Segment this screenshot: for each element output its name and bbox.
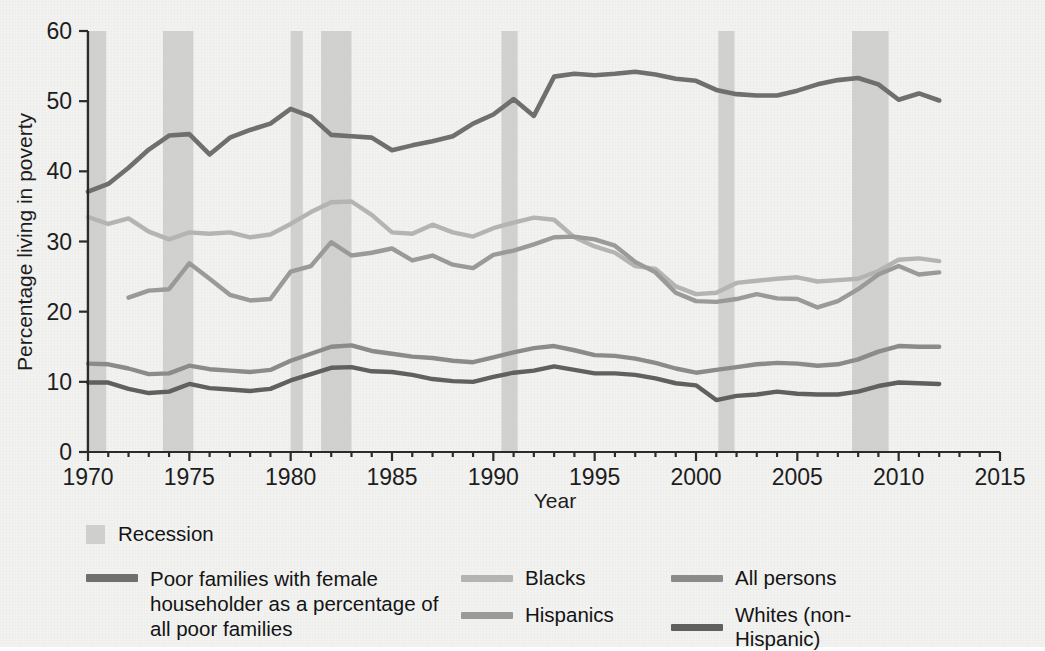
legend-item-poor-families: Poor families with female householder as… [86, 566, 461, 641]
legend-item-whites: Whites (non-Hispanic) [671, 603, 881, 651]
all-persons-swatch [671, 575, 723, 582]
legend-item-hispanics: Hispanics [461, 603, 671, 627]
blacks-swatch [461, 575, 513, 582]
y-tick-label: 0 [59, 439, 72, 465]
x-tick-label: 1970 [62, 464, 113, 490]
poor-families-label: Poor families with female householder as… [150, 566, 461, 641]
legend-recession-item: Recession [86, 520, 1026, 548]
chart-legend: Recession Poor families with female hous… [86, 520, 1026, 651]
y-tick-label: 60 [46, 18, 72, 44]
recession-label: Recession [118, 522, 214, 546]
x-tick-label: 2005 [772, 464, 823, 490]
poverty-line-chart: 0102030405060197019751980198519901995200… [0, 0, 1045, 520]
y-tick-label: 30 [46, 229, 72, 255]
x-tick-label: 1985 [366, 464, 417, 490]
x-tick-label: 1975 [164, 464, 215, 490]
blacks-label: Blacks [525, 566, 585, 590]
hispanics-swatch [461, 612, 513, 619]
y-tick-label: 20 [46, 299, 72, 325]
recession-band [501, 31, 517, 452]
recession-band [291, 31, 303, 452]
y-tick-label: 10 [46, 369, 72, 395]
x-tick-label: 2010 [873, 464, 924, 490]
legend-item-blacks: Blacks [461, 566, 671, 590]
poor-families-swatch [86, 574, 138, 582]
x-tick-label: 2000 [670, 464, 721, 490]
y-tick-label: 40 [46, 158, 72, 184]
all-persons-label: All persons [735, 566, 836, 590]
recession-swatch [86, 525, 105, 544]
series-line-2 [129, 237, 940, 308]
recession-band [321, 31, 351, 452]
x-tick-label: 1980 [265, 464, 316, 490]
hispanics-label: Hispanics [525, 603, 614, 627]
whites-swatch [671, 624, 723, 631]
legend-item-all-persons: All persons [671, 566, 881, 590]
legend-col-race: Blacks Hispanics [461, 566, 671, 627]
x-tick-label: 2015 [974, 464, 1025, 490]
y-tick-label: 50 [46, 88, 72, 114]
legend-series-grid: Poor families with female householder as… [86, 566, 1026, 651]
legend-col-overall: All persons Whites (non-Hispanic) [671, 566, 881, 651]
x-axis-title: Year [534, 489, 576, 512]
x-tick-label: 1995 [569, 464, 620, 490]
whites-label: Whites (non-Hispanic) [735, 603, 881, 651]
y-axis-title: Percentage living in poverty [13, 113, 36, 371]
x-tick-label: 1990 [468, 464, 519, 490]
